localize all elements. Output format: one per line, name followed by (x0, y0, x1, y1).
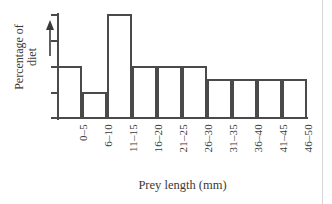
histogram-bar (132, 66, 157, 118)
histogram-bar (282, 79, 307, 118)
x-tick-label: 36–40 (251, 124, 265, 168)
y-axis-tick (51, 14, 58, 16)
y-axis-title: Percentage of diet (13, 5, 39, 109)
x-axis-title: Prey length (mm) (57, 178, 308, 193)
x-tick-label: 11–15 (126, 124, 140, 168)
x-tick-label: 16–20 (151, 124, 165, 168)
x-tick-label: 41–45 (276, 124, 290, 168)
histogram-bar (232, 79, 257, 118)
x-tick-label: 21–25 (176, 124, 190, 168)
histogram-bar (207, 79, 232, 118)
histogram-bar (82, 92, 107, 118)
histogram-figure: 0–5 6–10 11–15 16–20 21–25 26–30 31–35 3… (0, 0, 332, 204)
plot-area: 0–5 6–10 11–15 16–20 21–25 26–30 31–35 3… (0, 0, 332, 204)
x-tick-label: 6–10 (101, 124, 115, 168)
y-axis-title-line2: diet (26, 5, 39, 109)
histogram-bar (257, 79, 282, 118)
histogram-bar (107, 14, 132, 118)
x-tick-label: 0–5 (76, 124, 90, 168)
x-tick-label: 26–30 (201, 124, 215, 168)
histogram-bar (57, 66, 82, 118)
up-arrow-icon (45, 20, 55, 56)
histogram-bar (157, 66, 182, 118)
x-tick-label: 46–50 (301, 124, 315, 168)
histogram-bar (182, 66, 207, 118)
x-tick-label: 31–35 (226, 124, 240, 168)
